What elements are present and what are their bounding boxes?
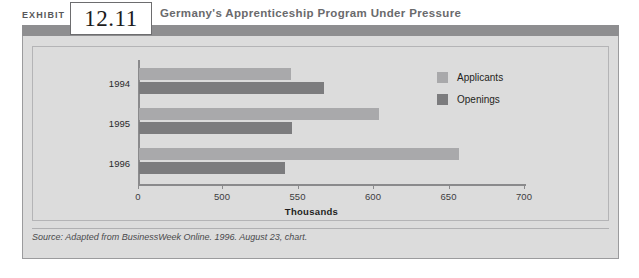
exhibit-label: EXHIBIT <box>22 10 65 20</box>
bar-1994-applicants <box>139 68 291 80</box>
x-tick-label-0: 0 <box>135 191 140 202</box>
legend-item-applicants: Applicants <box>437 72 503 83</box>
x-tick-label-600: 600 <box>365 191 381 202</box>
x-tick-700 <box>524 184 525 189</box>
bar-1994-openings <box>139 82 324 94</box>
bar-1995-openings <box>139 122 292 134</box>
x-tick-650 <box>449 184 450 189</box>
category-label-1996: 1996 <box>70 158 130 169</box>
x-tick-label-650: 650 <box>441 191 457 202</box>
x-tick-0 <box>138 184 139 189</box>
x-tick-label-500: 500 <box>214 191 230 202</box>
chart-legend: Applicants Openings <box>437 72 503 116</box>
legend-label-applicants: Applicants <box>457 72 503 83</box>
x-tick-500 <box>222 184 223 189</box>
legend-label-openings: Openings <box>457 94 500 105</box>
bar-1995-applicants <box>139 108 379 120</box>
x-tick-600 <box>373 184 374 189</box>
x-tick-label-700: 700 <box>516 191 532 202</box>
footer-divider <box>32 228 609 229</box>
bar-1996-applicants <box>139 148 459 160</box>
legend-swatch-openings <box>437 94 448 105</box>
bar-1996-openings <box>139 162 285 174</box>
category-label-1995: 1995 <box>70 118 130 129</box>
legend-swatch-applicants <box>437 72 448 83</box>
legend-item-openings: Openings <box>437 94 503 105</box>
x-axis-caption-text: Thousands <box>285 206 338 217</box>
x-tick-label-550: 550 <box>290 191 306 202</box>
category-label-1994: 1994 <box>70 78 130 89</box>
exhibit-figure: EXHIBIT 12.11 Germany's Apprenticeship P… <box>0 0 639 278</box>
exhibit-number: 12.11 <box>84 7 137 30</box>
chart-title: Germany's Apprenticeship Program Under P… <box>160 7 461 19</box>
exhibit-number-box: 12.11 <box>70 2 152 35</box>
x-axis-line <box>138 184 526 186</box>
x-tick-550 <box>298 184 299 189</box>
x-axis-caption: Thousands <box>0 206 639 217</box>
source-note: Source: Adapted from BusinessWeek Online… <box>32 232 307 242</box>
